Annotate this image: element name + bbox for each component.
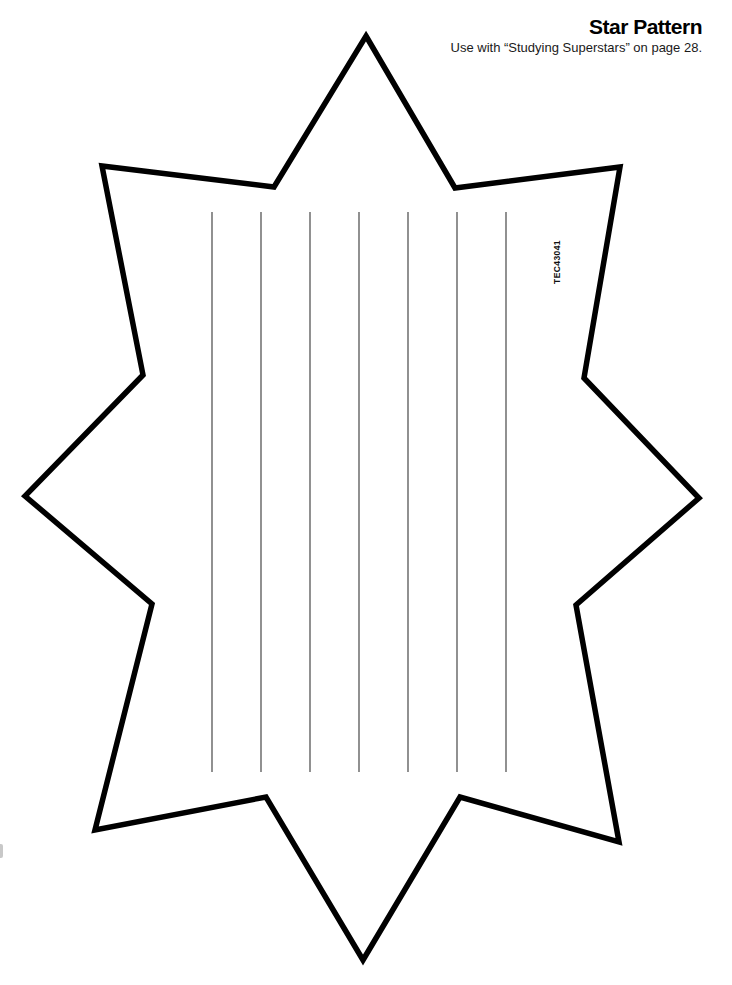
product-code-label: TEC43041 [552, 240, 562, 284]
star-pattern-svg [0, 0, 732, 985]
page-title: Star Pattern [451, 15, 702, 38]
scan-artifact [0, 844, 3, 858]
star-outline [25, 36, 699, 960]
page: Star Pattern Use with “Studying Supersta… [0, 0, 732, 985]
page-header: Star Pattern Use with “Studying Supersta… [451, 15, 702, 55]
writing-lines [212, 212, 506, 772]
page-subtitle: Use with “Studying Superstars” on page 2… [451, 40, 702, 55]
